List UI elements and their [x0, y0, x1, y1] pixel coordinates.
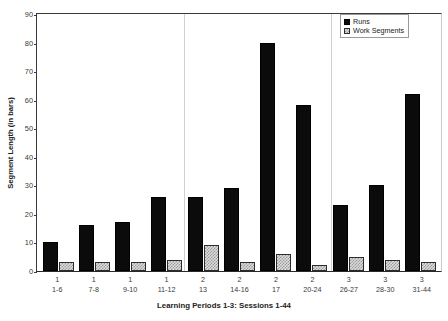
- learning-period-number: 3: [404, 275, 440, 285]
- x-axis-tick-label: 326-27: [331, 275, 367, 299]
- bar-work-segments: [276, 254, 291, 271]
- session-range: 9-10: [112, 285, 148, 295]
- y-axis-title: Segment Length (in bars): [6, 97, 15, 189]
- y-axis-tick-label: 80: [25, 40, 33, 47]
- chart-legend: RunsWork Segments: [340, 14, 409, 38]
- legend-item: Runs: [344, 17, 404, 26]
- y-axis-tick-label: 10: [25, 240, 33, 247]
- bar-group: [221, 14, 257, 271]
- session-range: 26-27: [331, 285, 367, 295]
- bar-group: [366, 14, 402, 271]
- y-axis-title-wrapper: Segment Length (in bars): [11, 13, 12, 272]
- plot-area: 0102030405060708090: [36, 13, 442, 272]
- bar-runs: [115, 222, 130, 271]
- bar-group: [40, 14, 76, 271]
- learning-period-number: 3: [331, 275, 367, 285]
- bar-work-segments: [95, 262, 110, 271]
- x-axis-tick-label: 328-30: [367, 275, 403, 299]
- bar-group: [258, 14, 294, 271]
- learning-period-number: 1: [112, 275, 148, 285]
- legend-item: Work Segments: [344, 26, 404, 35]
- y-axis-tick-label: 20: [25, 211, 33, 218]
- bar-runs: [369, 185, 384, 271]
- y-axis-tick-label: 60: [25, 97, 33, 104]
- learning-period-number: 2: [294, 275, 330, 285]
- bar-group: [149, 14, 185, 271]
- x-axis-tick-label: 331-44: [404, 275, 440, 299]
- legend-item-label: Work Segments: [353, 27, 404, 35]
- session-range: 17: [258, 285, 294, 295]
- y-axis-tick-label: 70: [25, 68, 33, 75]
- session-range: 14-16: [221, 285, 257, 295]
- x-axis-tick-label: 214-16: [221, 275, 257, 299]
- bar-runs: [333, 205, 348, 271]
- y-axis-tick-label: 90: [25, 11, 33, 18]
- bar-group: [185, 14, 221, 271]
- session-range: 31-44: [404, 285, 440, 295]
- y-axis-tick-label: 30: [25, 183, 33, 190]
- session-range: 1-6: [39, 285, 75, 295]
- session-range: 11-12: [148, 285, 184, 295]
- learning-period-number: 3: [367, 275, 403, 285]
- bar-work-segments: [421, 262, 436, 271]
- bar-work-segments: [167, 260, 182, 271]
- x-axis-tick-label: 213: [185, 275, 221, 299]
- bar-group: [113, 14, 149, 271]
- session-range: 7-8: [75, 285, 111, 295]
- bar-runs: [260, 43, 275, 271]
- x-axis-tick-label: 19-10: [112, 275, 148, 299]
- bar-work-segments: [385, 260, 400, 271]
- bar-work-segments: [131, 262, 146, 271]
- session-range: 13: [185, 285, 221, 295]
- bar-runs: [188, 197, 203, 271]
- y-axis-tick-label: 50: [25, 126, 33, 133]
- hatched-gray-swatch: [344, 28, 350, 34]
- x-axis-tick-label: 11-6: [39, 275, 75, 299]
- solid-black-swatch: [344, 19, 350, 25]
- learning-period-number: 1: [75, 275, 111, 285]
- learning-period-number: 1: [39, 275, 75, 285]
- bar-runs: [151, 197, 166, 271]
- bar-work-segments: [312, 265, 327, 271]
- bar-runs: [43, 242, 58, 271]
- bar-runs: [79, 225, 94, 271]
- x-axis-tick-label: 111-12: [148, 275, 184, 299]
- learning-period-number: 1: [148, 275, 184, 285]
- y-axis-tick-mark: [34, 272, 37, 273]
- bar-work-segments: [240, 262, 255, 271]
- bar-chart: Segment Length (in bars) 010203040506070…: [0, 0, 448, 321]
- y-axis-tick-label: 40: [25, 154, 33, 161]
- bars-layer: [37, 14, 441, 271]
- bar-work-segments: [59, 262, 74, 271]
- bar-runs: [405, 94, 420, 271]
- bar-group: [330, 14, 366, 271]
- learning-period-number: 2: [185, 275, 221, 285]
- bar-group: [294, 14, 330, 271]
- x-axis-tick-label: 220-24: [294, 275, 330, 299]
- x-axis-title: Learning Periods 1-3: Sessions 1-44: [0, 301, 448, 310]
- session-range: 28-30: [367, 285, 403, 295]
- bar-group: [403, 14, 439, 271]
- bar-group: [76, 14, 112, 271]
- x-axis-tick-labels: 11-617-819-10111-12213214-16217220-24326…: [36, 275, 442, 299]
- legend-item-label: Runs: [353, 18, 370, 26]
- bar-work-segments: [349, 257, 364, 271]
- x-axis-tick-label: 17-8: [75, 275, 111, 299]
- x-axis-tick-label: 217: [258, 275, 294, 299]
- y-axis-tick-label: 0: [29, 268, 33, 275]
- learning-period-number: 2: [258, 275, 294, 285]
- bar-runs: [224, 188, 239, 271]
- bar-runs: [296, 105, 311, 271]
- session-range: 20-24: [294, 285, 330, 295]
- bar-work-segments: [204, 245, 219, 271]
- learning-period-number: 2: [221, 275, 257, 285]
